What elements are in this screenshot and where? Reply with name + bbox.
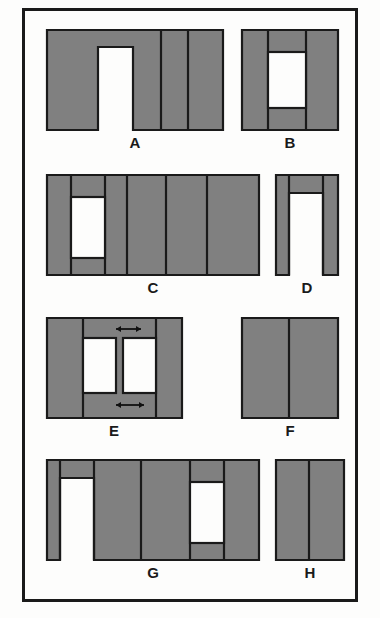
shape-a: [41, 24, 229, 136]
shape-label-f: F: [270, 423, 310, 439]
shape-hole: [83, 338, 116, 393]
shape-label-g: G: [133, 565, 173, 581]
shape-d: [270, 169, 344, 281]
shape-e: [41, 312, 188, 424]
shape-label-e: E: [94, 423, 134, 439]
shape-b: [236, 24, 344, 136]
shape-h-graphic: [270, 454, 350, 566]
shape-b-graphic: [236, 24, 344, 136]
shape-c-graphic: [41, 169, 265, 281]
shape-body: [47, 460, 259, 560]
shape-hole: [123, 338, 156, 393]
shape-f-graphic: [236, 312, 344, 424]
shape-h: [270, 454, 350, 566]
shape-label-d: D: [287, 280, 327, 296]
shape-body: [276, 175, 338, 275]
shape-label-c: C: [133, 280, 173, 296]
shape-c: [41, 169, 265, 281]
shape-g: [41, 454, 265, 566]
shape-a-graphic: [41, 24, 229, 136]
shape-e-graphic: [41, 312, 188, 424]
shape-d-graphic: [270, 169, 344, 281]
figure-root: ABCDEFGH: [0, 0, 380, 618]
shape-label-b: B: [270, 135, 310, 151]
shape-label-h: H: [290, 565, 330, 581]
shape-label-a: A: [115, 135, 155, 151]
shape-hole: [71, 197, 105, 258]
shape-hole: [190, 482, 224, 543]
shape-g-graphic: [41, 454, 265, 566]
shape-f: [236, 312, 344, 424]
shape-hole: [268, 52, 306, 108]
shape-body: [47, 30, 223, 130]
